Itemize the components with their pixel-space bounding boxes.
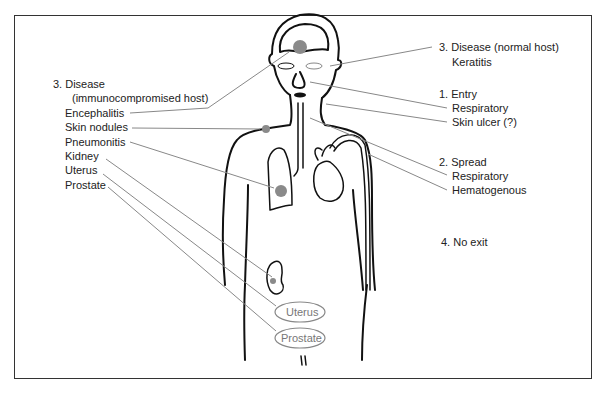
label-spread-respiratory: Respiratory — [452, 170, 508, 183]
label-pneumonitis: Pneumonitis — [65, 136, 126, 149]
kidney-outline — [267, 261, 283, 294]
lung-lesion — [275, 185, 287, 197]
label-skin-ulcer: Skin ulcer (?) — [452, 116, 517, 129]
torso-right-outline — [321, 98, 375, 290]
label-hematogenous: Hematogenous — [452, 184, 527, 197]
heart-outline — [314, 161, 344, 201]
disease-immunocompromised-heading: 3. Disease — [53, 78, 105, 91]
label-kidney: Kidney — [65, 150, 99, 163]
no-exit-label: 4. No exit — [441, 236, 487, 249]
label-skin-nodules: Skin nodules — [65, 121, 128, 134]
uterus-organ-label: Uterus — [286, 306, 318, 319]
label-encephalitis: Encephalitis — [65, 107, 124, 120]
prostate-organ-label: Prostate — [281, 332, 322, 345]
left-eye-icon — [278, 63, 294, 69]
lung-outline — [268, 148, 292, 210]
label-keratitis: Keratitis — [452, 56, 492, 69]
disease-normal-heading: 3. Disease (normal host) — [439, 41, 559, 54]
kidney-lesion — [270, 278, 276, 284]
spread-heading: 2. Spread — [439, 156, 487, 169]
label-uterus: Uterus — [65, 164, 97, 177]
label-entry-respiratory: Respiratory — [452, 102, 508, 115]
right-eye-icon — [306, 63, 322, 69]
skin-nodule-lesion — [262, 125, 270, 133]
disease-immunocompromised-subheading: (immunocompromised host) — [72, 92, 208, 105]
entry-heading: 1. Entry — [439, 88, 477, 101]
mouth-icon — [294, 93, 306, 98]
brain-lesion — [293, 40, 307, 54]
label-prostate: Prostate — [65, 179, 106, 192]
